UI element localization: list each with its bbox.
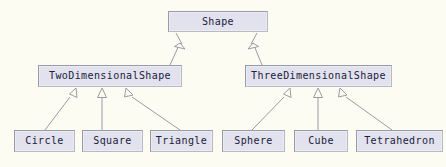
class-node-label: Square bbox=[93, 136, 132, 146]
edge-sphere-to-three_d bbox=[252, 88, 291, 130]
edge-two_d-to-shape bbox=[170, 33, 185, 65]
class-node-label: Triangle bbox=[156, 136, 207, 146]
class-node-label: Tetrahedron bbox=[364, 136, 435, 146]
edge-square-to-two_d bbox=[98, 88, 107, 130]
class-node-circle[interactable]: Circle bbox=[14, 130, 75, 152]
class-node-tetrahedron[interactable]: Tetrahedron bbox=[356, 130, 443, 152]
class-node-triangle[interactable]: Triangle bbox=[150, 130, 213, 152]
class-node-label: Cube bbox=[308, 136, 334, 146]
class-node-shape[interactable]: Shape bbox=[168, 11, 268, 32]
class-diagram-canvas: Shape TwoDimensionalShape ThreeDimension… bbox=[0, 0, 446, 167]
class-node-label: ThreeDimensionalShape bbox=[251, 71, 386, 81]
edge-circle-to-two_d bbox=[45, 88, 77, 130]
class-node-label: Sphere bbox=[234, 136, 273, 146]
class-node-label: TwoDimensionalShape bbox=[49, 71, 171, 81]
edge-tetrahedron-to-three_d bbox=[339, 88, 393, 130]
class-node-threedimensionalshape[interactable]: ThreeDimensionalShape bbox=[245, 65, 392, 87]
class-node-cube[interactable]: Cube bbox=[294, 130, 348, 152]
edge-triangle-to-two_d bbox=[125, 88, 181, 130]
edge-three_d-to-shape bbox=[248, 33, 262, 65]
class-node-sphere[interactable]: Sphere bbox=[222, 130, 285, 152]
class-node-square[interactable]: Square bbox=[82, 130, 143, 152]
edge-cube-to-three_d bbox=[314, 88, 323, 130]
class-node-label: Circle bbox=[25, 136, 64, 146]
class-node-label: Shape bbox=[202, 17, 234, 27]
class-node-twodimensionalshape[interactable]: TwoDimensionalShape bbox=[38, 65, 182, 87]
